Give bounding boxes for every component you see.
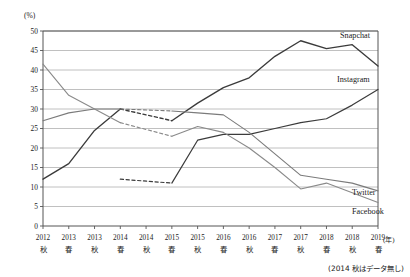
x-tick-season: 秋 bbox=[91, 245, 99, 254]
series-lines bbox=[43, 41, 378, 203]
x-tick-season: 秋 bbox=[246, 245, 254, 254]
series-dashed-bridge-instagram bbox=[120, 179, 172, 183]
y-tick-label: 0 bbox=[34, 222, 38, 231]
series-line-snapchat bbox=[43, 109, 120, 179]
y-tick-label: 50 bbox=[31, 27, 39, 36]
y-tick-label: 10 bbox=[31, 183, 39, 192]
missing-data-note: (2014 秋はデータ無し) bbox=[328, 264, 404, 273]
series-line-facebook bbox=[172, 127, 378, 203]
y-tick-label: 25 bbox=[31, 124, 39, 133]
y-tick-label: 45 bbox=[31, 46, 39, 55]
x-tick-year: 2016 bbox=[242, 234, 257, 242]
y-tick-label: 15 bbox=[31, 163, 39, 172]
x-tick-year: 2014 bbox=[113, 234, 128, 242]
series-dashed-bridge-facebook bbox=[120, 123, 172, 137]
y-axis-unit-label: (%) bbox=[24, 11, 36, 20]
x-tick-year: 2018 bbox=[319, 234, 334, 242]
gridlines-group bbox=[43, 31, 378, 207]
series-label-twitter: Twitter bbox=[352, 188, 376, 197]
chart-container: 05101520253035404550 2012秋2013春2013秋2014… bbox=[0, 0, 410, 277]
series-label-instagram: Instagram bbox=[337, 75, 370, 84]
x-tick-year: 2017 bbox=[294, 234, 309, 242]
y-tick-label: 20 bbox=[31, 144, 39, 153]
x-tick-season: 秋 bbox=[349, 245, 357, 254]
x-tick-season: 春 bbox=[271, 245, 279, 254]
x-tick-season: 秋 bbox=[143, 245, 151, 254]
x-tick-season: 春 bbox=[65, 245, 73, 254]
x-axis-ticks: 2012秋2013春2013秋2014春2014秋2015春2015秋2016春… bbox=[36, 226, 386, 254]
x-tick-season: 春 bbox=[375, 245, 383, 254]
series-label-snapchat: Snapchat bbox=[340, 31, 371, 40]
x-tick-season: 秋 bbox=[40, 245, 48, 254]
series-line-instagram bbox=[172, 90, 378, 184]
x-tick-year: 2014 bbox=[139, 234, 154, 242]
x-tick-year: 2015 bbox=[190, 234, 205, 242]
x-tick-year: 2015 bbox=[165, 234, 180, 242]
x-tick-season: 春 bbox=[168, 245, 176, 254]
series-label-facebook: Facebook bbox=[352, 207, 385, 216]
y-tick-label: 5 bbox=[34, 202, 38, 211]
x-tick-year: 2016 bbox=[216, 234, 231, 242]
series-line-twitter bbox=[172, 111, 378, 191]
x-axis-year-label: (年) bbox=[383, 235, 395, 244]
y-tick-label: 40 bbox=[31, 66, 39, 75]
x-tick-year: 2012 bbox=[36, 234, 51, 242]
y-axis-ticks: 05101520253035404550 bbox=[31, 27, 43, 231]
y-tick-label: 35 bbox=[31, 85, 39, 94]
x-tick-season: 春 bbox=[117, 245, 125, 254]
x-tick-season: 春 bbox=[323, 245, 331, 254]
x-tick-year: 2013 bbox=[87, 234, 102, 242]
x-tick-season: 秋 bbox=[194, 245, 202, 254]
line-chart: 05101520253035404550 2012秋2013春2013秋2014… bbox=[0, 0, 410, 277]
series-line-facebook bbox=[43, 64, 120, 123]
x-tick-year: 2018 bbox=[345, 234, 360, 242]
x-tick-season: 春 bbox=[220, 245, 228, 254]
y-tick-label: 30 bbox=[31, 105, 39, 114]
x-tick-year: 2013 bbox=[62, 234, 77, 242]
x-tick-season: 秋 bbox=[297, 245, 305, 254]
x-tick-year: 2017 bbox=[268, 234, 283, 242]
